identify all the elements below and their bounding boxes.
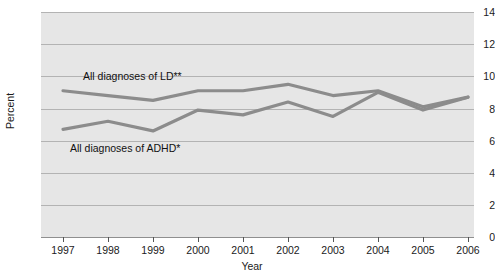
series-lines (0, 0, 495, 275)
series-annotation-ld: All diagnoses of LD** (83, 70, 182, 82)
series-annotation-adhd: All diagnoses of ADHD* (70, 142, 180, 154)
chart-figure: 14 12 10 8 6 4 2 0 1997 1998 1999 2000 2… (0, 0, 495, 275)
